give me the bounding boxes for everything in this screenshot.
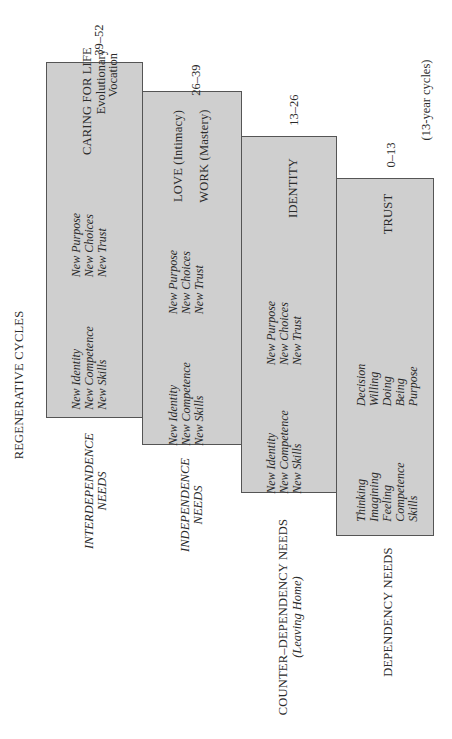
needs-list-a: Thinking Imagining Feeling Competence Sk… bbox=[355, 462, 420, 521]
need-item: New Trust bbox=[291, 301, 304, 365]
need-item: Skills bbox=[407, 462, 420, 521]
stage-heading-caring-for-life: CARING FOR LIFE Evolutionary Vocation bbox=[80, 47, 119, 155]
diagram-title: REGENERATIVE CYCLES bbox=[12, 311, 27, 460]
need-item: New Trust bbox=[193, 250, 206, 314]
needs-list-b: New Purpose New Choices New Trust bbox=[167, 250, 206, 314]
label-line: NEEDS bbox=[192, 458, 205, 552]
cycle-note: (13-year cycles) bbox=[419, 60, 434, 141]
stage-label-independence: INDEPENDENCE NEEDS bbox=[179, 458, 205, 552]
heading-caring-for-life: CARING FOR LIFE bbox=[80, 47, 95, 155]
stage-label-dependency: DEPENDENCY NEEDS bbox=[381, 547, 396, 676]
label-line: COUNTER–DEPENDENCY NEEDS bbox=[276, 519, 291, 715]
age-range-13-26: 13–26 bbox=[287, 94, 302, 125]
needs-list-b: Decision Willing Doing Being Purpose bbox=[355, 364, 420, 407]
need-item: New Trust bbox=[96, 213, 109, 277]
need-item: Purpose bbox=[407, 364, 420, 407]
heading-work: WORK (Mastery) bbox=[197, 109, 212, 202]
heading-trust: TRUST bbox=[381, 194, 396, 235]
age-range-26-39: 26–39 bbox=[189, 64, 204, 95]
need-item: New Skills bbox=[193, 362, 206, 446]
needs-list-b: New Purpose New Choices New Trust bbox=[70, 213, 109, 277]
heading-vocation: Vocation bbox=[107, 47, 119, 155]
needs-list-b: New Purpose New Choices New Trust bbox=[265, 301, 304, 365]
label-subline: (Leaving Home) bbox=[291, 519, 304, 715]
needs-list-a: New Identity New Competence New Skills bbox=[70, 326, 109, 410]
stage-label-interdependence: INTERDEPENDENCE NEEDS bbox=[83, 433, 109, 549]
heading-love: LOVE (Intimacy) bbox=[171, 110, 186, 202]
age-range-0-13: 0–13 bbox=[384, 143, 399, 168]
needs-list-a: New Identity New Competence New Skills bbox=[265, 410, 304, 494]
heading-identity: IDENTITY bbox=[286, 158, 301, 218]
needs-list-a: New Identity New Competence New Skills bbox=[167, 362, 206, 446]
need-item: New Skills bbox=[291, 410, 304, 494]
stage-label-counter-dependency: COUNTER–DEPENDENCY NEEDS (Leaving Home) bbox=[276, 519, 304, 715]
label-line: NEEDS bbox=[96, 433, 109, 549]
need-item: New Skills bbox=[96, 326, 109, 410]
